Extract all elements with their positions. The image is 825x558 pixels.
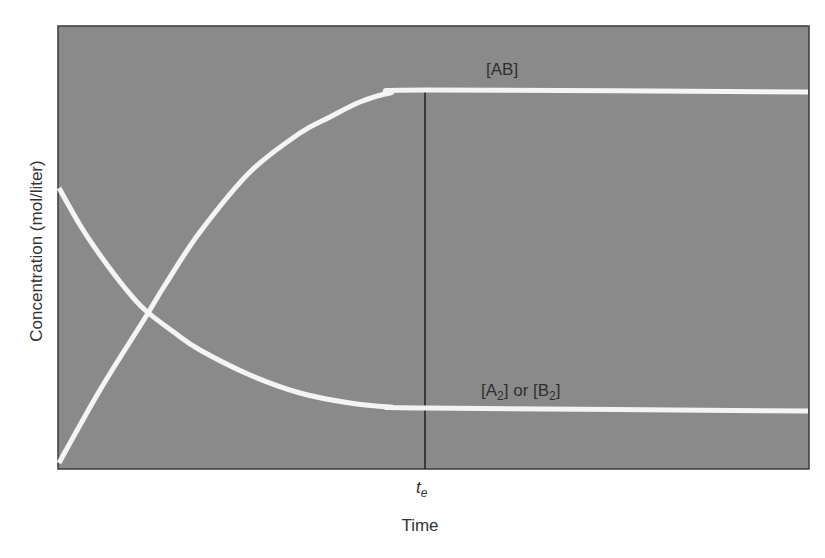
equilibrium-time-tick-label: te (416, 478, 427, 500)
label-subscript: 2 (497, 389, 504, 403)
chart-canvas (0, 0, 825, 558)
series-label-a2-b2: [A2] or [B2] (481, 381, 561, 403)
label-subscript: 2 (549, 389, 556, 403)
label-part: ] or [B (504, 381, 549, 400)
series-label-ab: [AB] (486, 60, 518, 80)
y-axis-label: Concentration (mol/liter) (27, 160, 47, 341)
te-sub: e (421, 486, 428, 500)
label-part: ] (556, 381, 561, 400)
label-part: [A (481, 381, 497, 400)
x-axis-label: Time (401, 516, 438, 536)
